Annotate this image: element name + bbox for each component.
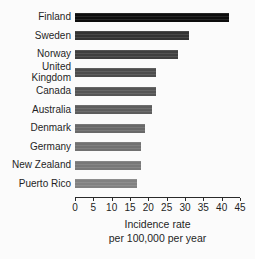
bar-track xyxy=(75,50,240,59)
bar-track xyxy=(75,124,240,133)
category-label: Denmark xyxy=(0,123,75,134)
axis-tick xyxy=(93,198,94,202)
axis-tick xyxy=(148,198,149,202)
axis-tick xyxy=(75,198,76,202)
axis-tick-label: 30 xyxy=(179,202,190,213)
chart-row: United Kingdom xyxy=(0,64,255,83)
x-axis-title: Incidence rate per 100,000 per year xyxy=(75,217,240,246)
x-axis-title-line2: per 100,000 per year xyxy=(75,231,240,246)
axis-tick-label: 10 xyxy=(106,202,117,213)
bar xyxy=(75,50,178,59)
bar-track xyxy=(75,68,240,77)
axis-tick xyxy=(130,198,131,202)
bar-track xyxy=(75,31,240,40)
bar-track xyxy=(75,179,240,188)
category-label: Finland xyxy=(0,12,75,23)
category-label: Australia xyxy=(0,105,75,116)
category-label: Puerto Rico xyxy=(0,179,75,190)
bar xyxy=(75,87,156,96)
chart-row: Canada xyxy=(0,82,255,101)
bar xyxy=(75,13,229,22)
axis-tick-label: 0 xyxy=(72,202,78,213)
chart-row: Sweden xyxy=(0,27,255,46)
bar-track xyxy=(75,142,240,151)
x-axis: 051015202530354045 xyxy=(75,197,240,214)
category-label: Sweden xyxy=(0,31,75,42)
axis-tick xyxy=(112,198,113,202)
bar-track xyxy=(75,87,240,96)
chart-row: New Zealand xyxy=(0,156,255,175)
category-label: Germany xyxy=(0,142,75,153)
axis-tick xyxy=(240,198,241,202)
axis-tick xyxy=(203,198,204,202)
chart-row: Norway xyxy=(0,45,255,64)
axis-tick-label: 5 xyxy=(91,202,97,213)
category-label: New Zealand xyxy=(0,160,75,171)
bar xyxy=(75,161,141,170)
axis-tick-label: 15 xyxy=(124,202,135,213)
category-label: Norway xyxy=(0,49,75,60)
axis-tick-label: 20 xyxy=(143,202,154,213)
category-label: Canada xyxy=(0,86,75,97)
category-label: United Kingdom xyxy=(0,62,75,83)
bar-track xyxy=(75,105,240,114)
bar xyxy=(75,142,141,151)
bar xyxy=(75,179,137,188)
bar xyxy=(75,31,189,40)
axis-tick-label: 40 xyxy=(216,202,227,213)
chart-row: Germany xyxy=(0,138,255,157)
chart-row: Puerto Rico xyxy=(0,175,255,194)
axis-tick-label: 45 xyxy=(234,202,245,213)
bar xyxy=(75,68,156,77)
axis-tick xyxy=(222,198,223,202)
axis-tick xyxy=(167,198,168,202)
axis-tick-label: 25 xyxy=(161,202,172,213)
bar-chart: FinlandSwedenNorwayUnited KingdomCanadaA… xyxy=(0,0,255,246)
axis-tick-label: 35 xyxy=(198,202,209,213)
x-axis-title-line1: Incidence rate xyxy=(75,217,240,232)
chart-rows: FinlandSwedenNorwayUnited KingdomCanadaA… xyxy=(0,8,255,193)
bar-track xyxy=(75,13,240,22)
bar xyxy=(75,124,145,133)
chart-row: Finland xyxy=(0,8,255,27)
bar xyxy=(75,105,152,114)
chart-row: Australia xyxy=(0,101,255,120)
chart-row: Denmark xyxy=(0,119,255,138)
bar-track xyxy=(75,161,240,170)
axis-tick xyxy=(185,198,186,202)
